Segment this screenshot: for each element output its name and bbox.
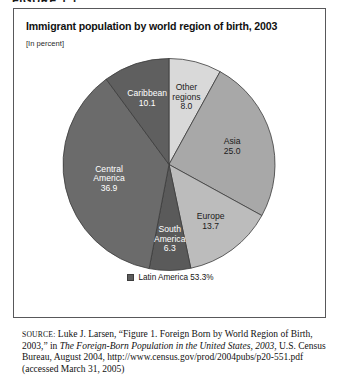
legend-swatch-latin-america bbox=[127, 274, 134, 281]
figure-box: Immigrant population by world region of … bbox=[13, 8, 326, 318]
source-note-label: source: bbox=[22, 330, 55, 339]
pie-chart: Otherregions8.0Asia25.0Europe13.7SouthAm… bbox=[40, 57, 298, 272]
figure-subtitle: [In percent] bbox=[26, 39, 64, 48]
pie-label-asia: Asia25.0 bbox=[224, 136, 241, 156]
figure-number: FIGURE 1.1 bbox=[12, 0, 78, 2]
page-edge bbox=[0, 0, 2, 382]
legend-label-latin-america: Latin America 53.3% bbox=[138, 273, 213, 282]
pie-chart-svg: Otherregions8.0Asia25.0Europe13.7SouthAm… bbox=[40, 57, 298, 272]
chart-legend: Latin America 53.3% bbox=[14, 273, 327, 282]
figure-title: Immigrant population by world region of … bbox=[26, 20, 277, 32]
source-note-publication: The Foreign-Born Population in the Unite… bbox=[60, 341, 274, 351]
source-note: source: Luke J. Larsen, “Figure 1. Forei… bbox=[22, 329, 328, 375]
